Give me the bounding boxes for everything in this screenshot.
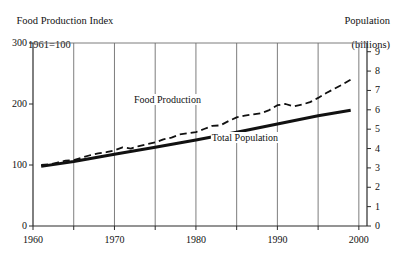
ytick-label-right-8: 8 — [375, 65, 380, 76]
xtick-label-1980: 1980 — [180, 234, 212, 245]
ytick-label-right-9: 9 — [375, 46, 380, 57]
ytick-label-right-4: 4 — [375, 143, 380, 154]
ytick-label-right-1: 1 — [375, 201, 380, 212]
ytick-label-left-0: 0 — [22, 220, 27, 231]
ytick-label-right-2: 2 — [375, 181, 380, 192]
chart-figure: Food Production Index 1961=100 Populatio… — [0, 0, 396, 254]
xtick-label-1960: 1960 — [17, 234, 49, 245]
plot-canvas — [0, 0, 396, 254]
ytick-label-right-7: 7 — [375, 84, 380, 95]
ytick-label-right-0: 0 — [375, 220, 380, 231]
xtick-label-1990: 1990 — [261, 234, 293, 245]
ytick-label-right-6: 6 — [375, 104, 380, 115]
series-annotation-total-population: Total Population — [211, 132, 279, 143]
xtick-label-2000: 2000 — [343, 234, 375, 245]
ytick-label-left-200: 200 — [12, 98, 27, 109]
series-annotation-food-production: Food Production — [133, 94, 202, 105]
ytick-label-right-3: 3 — [375, 162, 380, 173]
ytick-label-left-300: 300 — [12, 37, 27, 48]
ytick-label-right-5: 5 — [375, 123, 380, 134]
ytick-label-left-100: 100 — [12, 159, 27, 170]
xtick-label-1970: 1970 — [98, 234, 130, 245]
